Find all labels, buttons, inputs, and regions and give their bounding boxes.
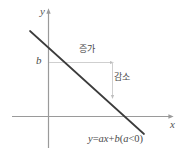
decrease-label: 감소	[114, 73, 130, 82]
y-axis-label: y	[40, 6, 45, 17]
y-intercept-label: b	[36, 55, 42, 66]
equation-condition-close: )	[140, 133, 144, 144]
linear-function-figure: y x b 증가 감소 y=ax+b(a<0)	[0, 0, 183, 158]
x-axis-label: x	[170, 119, 175, 130]
increase-label: 증가	[79, 45, 95, 54]
equation-label: y=ax+b(a<0)	[88, 134, 143, 145]
equation-term-ax: ax	[99, 133, 109, 144]
